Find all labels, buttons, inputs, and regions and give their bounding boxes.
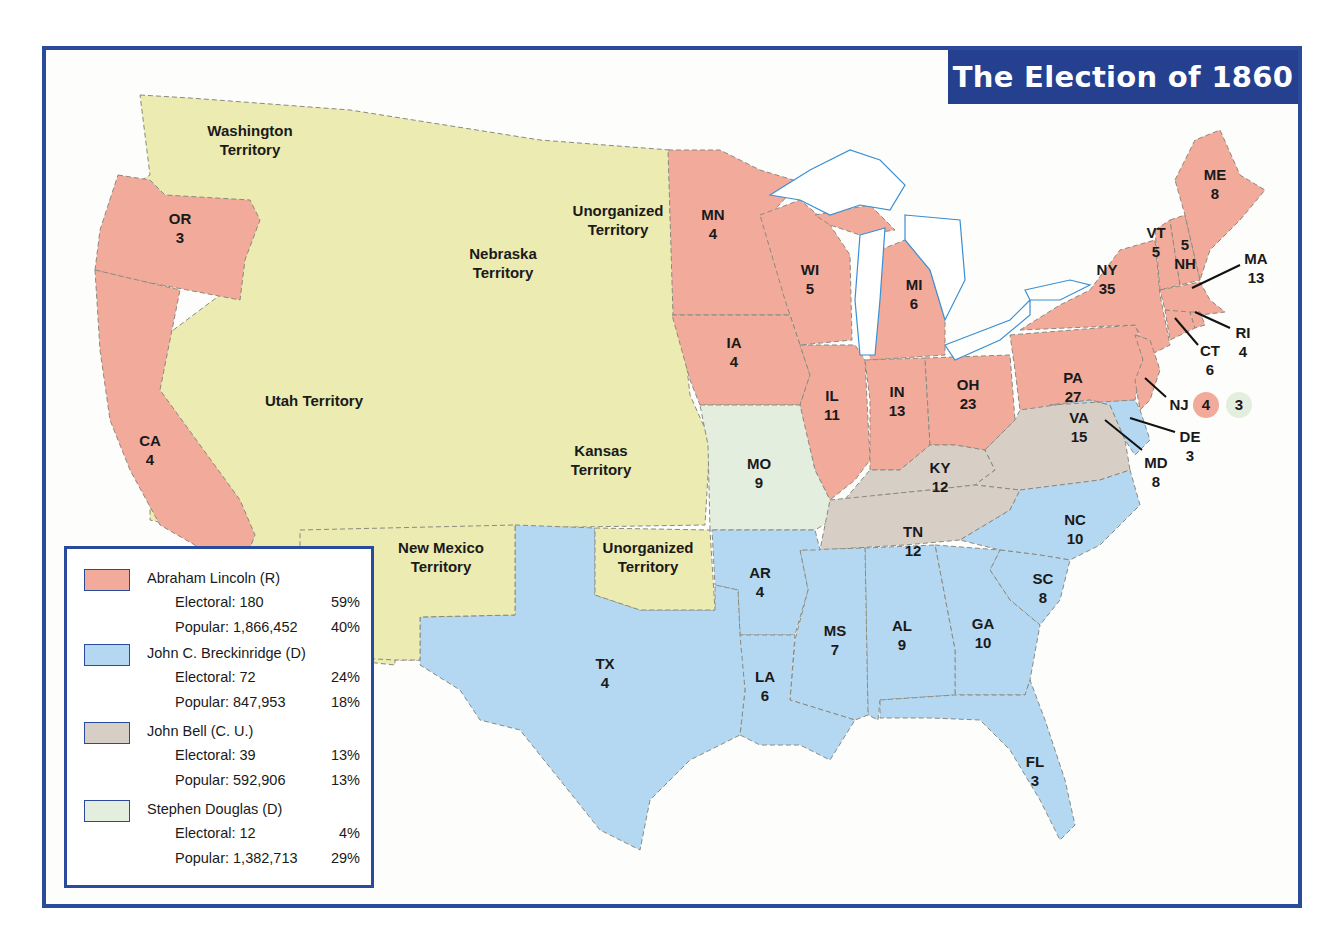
legend-popular: Popular: 592,906 [175,772,285,788]
legend-candidate: John C. Breckinridge (D) [147,645,306,661]
region-IA [672,315,810,405]
legend-electoral-pct: 59% [331,594,360,610]
legend-swatch-breckinridge [84,644,130,666]
legend-candidate: Abraham Lincoln (R) [147,570,280,586]
legend-candidate: Stephen Douglas (D) [147,801,282,817]
legend-electoral-row: Electoral: 7224% [175,669,360,685]
state-label-MA: MA13 [1244,250,1267,286]
map-title: The Election of 1860 [948,50,1298,104]
legend-popular-pct: 13% [331,772,360,788]
region-FL [880,680,1075,840]
legend-popular: Popular: 847,953 [175,694,285,710]
state-label-MD: MD8 [1144,454,1167,490]
nj-douglas-ev: 3 [1235,396,1243,413]
legend-swatch-douglas [84,800,130,822]
state-label-CT: CT6 [1200,342,1220,378]
label-utah-territory: Utah Territory [265,392,364,409]
legend-electoral: Electoral: 39 [175,747,256,763]
legend-swatch-lincoln [84,569,130,591]
legend-electoral-pct: 4% [339,825,360,841]
legend-popular-pct: 40% [331,619,360,635]
nj-lincoln-ev: 4 [1202,396,1211,413]
legend: Abraham Lincoln (R) Electoral: 18059% Po… [64,546,374,888]
legend-popular-pct: 18% [331,694,360,710]
legend-electoral: Electoral: 12 [175,825,256,841]
legend-electoral: Electoral: 180 [175,594,264,610]
state-label-RI: RI4 [1236,324,1251,360]
legend-electoral-pct: 13% [331,747,360,763]
legend-electoral: Electoral: 72 [175,669,256,685]
state-label-NJ: NJ [1169,396,1188,413]
legend-electoral-row: Electoral: 124% [175,825,360,841]
legend-popular-row: Popular: 1,382,71329% [175,850,360,866]
legend-popular: Popular: 1,866,452 [175,619,298,635]
legend-popular-pct: 29% [331,850,360,866]
legend-popular: Popular: 1,382,713 [175,850,298,866]
legend-electoral-row: Electoral: 3913% [175,747,360,763]
legend-popular-row: Popular: 592,90613% [175,772,360,788]
legend-electoral-pct: 24% [331,669,360,685]
legend-candidate: John Bell (C. U.) [147,723,253,739]
legend-swatch-bell [84,722,130,744]
legend-popular-row: Popular: 847,95318% [175,694,360,710]
legend-popular-row: Popular: 1,866,45240% [175,619,360,635]
state-label-DE: DE3 [1180,428,1201,464]
legend-electoral-row: Electoral: 18059% [175,594,360,610]
